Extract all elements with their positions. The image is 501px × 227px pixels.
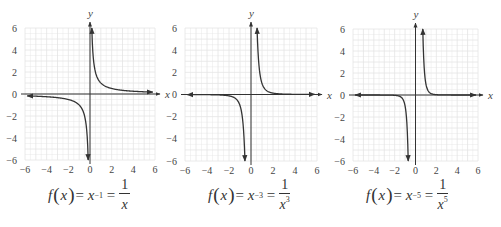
- y-tick-label: −2: [166, 111, 177, 122]
- formula-eq: =: [267, 187, 275, 204]
- x-tick-label: −2: [389, 165, 400, 176]
- formula-fraction: 1 x: [119, 178, 130, 212]
- formula-base: x: [248, 187, 255, 204]
- formula-eq: =: [394, 187, 402, 204]
- y-tick-label: −4: [6, 133, 17, 144]
- formula-exponent: −1: [94, 191, 103, 200]
- y-axis-label: y: [413, 8, 419, 20]
- y-axis-label: y: [248, 7, 254, 19]
- fraction-denominator: x5: [438, 194, 448, 212]
- x-tick-label: 4: [455, 165, 460, 176]
- x-tick-label: 2: [109, 164, 114, 175]
- graph-panel-3: xy−6−4−20246−6−4−20246 f (x) = x−5 = 1 x…: [330, 0, 501, 227]
- y-tick-label: 2: [340, 68, 345, 79]
- graph-plot-1: xy−6−4−20246−6−4−20246: [0, 0, 170, 175]
- graph-panel-2: xy−6−4−20246−6−4−20246 f (x) = x−3 = 1 x…: [160, 0, 335, 227]
- y-tick-label: 6: [172, 23, 177, 34]
- x-tick-label: −6: [348, 165, 359, 176]
- fraction-denominator: x3: [280, 194, 290, 212]
- x-tick-label: 2: [271, 165, 276, 176]
- x-tick-label: 6: [476, 165, 481, 176]
- formula-1: f (x) = x−1 = 1 x: [48, 178, 130, 212]
- formula-exponent: −5: [412, 191, 421, 200]
- formula-base: x: [406, 187, 413, 204]
- x-tick-label: −6: [20, 164, 31, 175]
- den-base: x: [122, 197, 128, 212]
- fraction-numerator: 1: [279, 178, 290, 194]
- x-tick-label: 0: [88, 164, 93, 175]
- y-tick-label: 2: [12, 67, 17, 78]
- y-tick-label: −6: [334, 156, 345, 167]
- y-tick-label: −2: [334, 112, 345, 123]
- y-tick-label: 0: [12, 89, 17, 100]
- formula-var: x: [221, 187, 228, 204]
- formula-eq: =: [425, 187, 433, 204]
- y-tick-label: 6: [12, 23, 17, 34]
- y-tick-label: −6: [166, 156, 177, 167]
- x-tick-label: −2: [224, 165, 235, 176]
- y-tick-label: 0: [340, 90, 345, 101]
- formula-fraction: 1 x5: [437, 178, 448, 212]
- y-tick-label: −6: [6, 155, 17, 166]
- formula-base: x: [88, 187, 95, 204]
- axes: xy−6−4−20246−6−4−20246: [166, 7, 332, 176]
- graph-plot-2: xy−6−4−20246−6−4−20246: [160, 0, 335, 175]
- x-tick-label: 6: [315, 165, 320, 176]
- graph-plot-3: xy−6−4−20246−6−4−20246: [330, 0, 501, 175]
- formula-eq: =: [76, 187, 84, 204]
- x-tick-label: 0: [413, 165, 418, 176]
- x-tick-label: 6: [153, 164, 158, 175]
- formula-fraction: 1 x3: [279, 178, 290, 212]
- y-tick-label: 4: [172, 45, 177, 56]
- x-tick-label: −4: [202, 165, 213, 176]
- x-tick-label: −4: [369, 165, 380, 176]
- formula-3: f (x) = x−5 = 1 x5: [366, 178, 448, 212]
- y-tick-label: 4: [340, 46, 345, 57]
- formula-var: x: [379, 187, 386, 204]
- y-tick-label: 4: [12, 45, 17, 56]
- x-tick-label: 4: [131, 164, 136, 175]
- x-tick-label: −6: [180, 165, 191, 176]
- x-tick-label: 4: [293, 165, 298, 176]
- y-tick-label: −4: [334, 134, 345, 145]
- x-tick-label: −2: [63, 164, 74, 175]
- y-tick-label: 6: [340, 24, 345, 35]
- x-axis-label: x: [487, 89, 493, 101]
- y-tick-label: 0: [172, 89, 177, 100]
- x-tick-label: −4: [41, 164, 52, 175]
- y-tick-label: −2: [6, 111, 17, 122]
- fraction-numerator: 1: [437, 178, 448, 194]
- formula-eq: =: [107, 187, 115, 204]
- formula-2: f (x) = x−3 = 1 x3: [208, 178, 290, 212]
- fraction-denominator: x: [122, 194, 128, 212]
- den-exponent: 5: [444, 195, 448, 204]
- graph-panel-1: xy−6−4−20246−6−4−20246 f (x) = x−1 = 1 x: [0, 0, 170, 227]
- x-tick-label: 0: [249, 165, 254, 176]
- y-tick-label: 2: [172, 67, 177, 78]
- formula-eq: =: [236, 187, 244, 204]
- y-tick-label: −4: [166, 133, 177, 144]
- y-axis-label: y: [87, 7, 93, 19]
- x-tick-label: 2: [434, 165, 439, 176]
- formula-exponent: −3: [254, 191, 263, 200]
- den-exponent: 3: [286, 195, 290, 204]
- formula-var: x: [61, 187, 68, 204]
- fraction-numerator: 1: [119, 178, 130, 194]
